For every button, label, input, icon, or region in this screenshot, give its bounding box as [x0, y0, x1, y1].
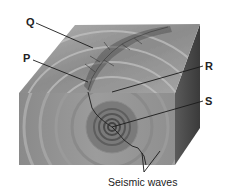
earthquake-diagram: Q P R S Seismic waves: [0, 0, 228, 193]
label-r: R: [205, 60, 213, 72]
label-seismic-waves: Seismic waves: [108, 176, 177, 188]
label-q: Q: [26, 16, 35, 28]
label-p: P: [23, 52, 30, 64]
label-s: S: [205, 95, 212, 107]
